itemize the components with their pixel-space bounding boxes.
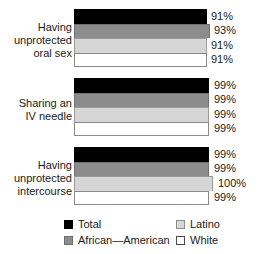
legend-swatch-icon <box>176 236 185 245</box>
bar-value-label: 100% <box>218 176 246 191</box>
legend-item-african-american[interactable]: African—American <box>64 233 176 248</box>
chart-legend: Total Latino African—American White <box>64 216 249 248</box>
legend-row: Total Latino <box>64 216 249 232</box>
bar-total[interactable] <box>74 147 209 162</box>
legend-row: African—American White <box>64 232 249 248</box>
bar-value-label: 99% <box>214 107 236 122</box>
legend-label: Latino <box>190 217 220 232</box>
bar-value-label: 91% <box>211 9 233 24</box>
bar-value-label: 93% <box>214 23 236 38</box>
bar-total[interactable] <box>74 78 209 93</box>
bar-latino[interactable] <box>74 38 207 53</box>
bar-latino[interactable] <box>74 107 209 122</box>
legend-label: African—American <box>78 233 170 248</box>
group-label: Sharing an IV needle <box>0 97 72 123</box>
bar-white[interactable] <box>74 53 207 68</box>
bar-value-label: 99% <box>214 121 236 136</box>
bar-value-label: 99% <box>214 190 236 205</box>
bar-white[interactable] <box>74 122 209 137</box>
bar-value-label: 99% <box>214 78 236 93</box>
group-label: Having unprotected oral sex <box>0 21 72 61</box>
legend-item-total[interactable]: Total <box>64 217 176 232</box>
bar-value-label: 99% <box>214 161 236 176</box>
bar-value-label: 91% <box>211 52 233 67</box>
legend-item-latino[interactable]: Latino <box>176 217 220 232</box>
bar-african-american[interactable] <box>74 24 210 39</box>
bar-value-label: 99% <box>214 92 236 107</box>
legend-label: White <box>190 233 218 248</box>
group-label: Having unprotected intercourse <box>0 159 72 199</box>
bar-african-american[interactable] <box>74 93 209 108</box>
legend-swatch-icon <box>64 236 73 245</box>
legend-label: Total <box>78 217 101 232</box>
legend-item-white[interactable]: White <box>176 233 218 248</box>
bar-african-american[interactable] <box>74 162 209 177</box>
bar-total[interactable] <box>74 9 207 24</box>
bar-chart: Having unprotected oral sex 91% 93% 91% … <box>0 0 275 254</box>
bar-white[interactable] <box>74 191 209 206</box>
legend-swatch-icon <box>176 220 185 229</box>
bar-latino[interactable] <box>74 176 213 191</box>
bar-value-label: 99% <box>214 147 236 162</box>
legend-swatch-icon <box>64 220 73 229</box>
bar-value-label: 91% <box>211 38 233 53</box>
